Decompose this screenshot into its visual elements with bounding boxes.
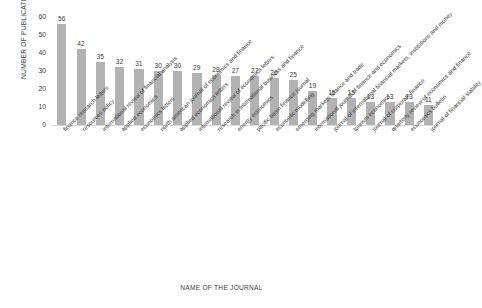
y-axis-tick-0: 0: [24, 121, 46, 128]
y-axis-tick-30: 30: [24, 67, 46, 74]
bar-value-label: 29: [187, 64, 206, 71]
bar-value-label: 31: [129, 60, 148, 67]
y-axis-tick-50: 50: [24, 31, 46, 38]
bar-value-label: 32: [110, 58, 129, 65]
bar-value-label: 25: [284, 71, 303, 78]
y-axis-tick-labels: 0102030405060: [24, 16, 46, 130]
y-axis-tick-10: 10: [24, 103, 46, 110]
bar-slot[interactable]: 56: [52, 17, 71, 125]
y-axis-tick-20: 20: [24, 85, 46, 92]
x-axis-category-labels: finance research lettersresources policy…: [52, 128, 438, 278]
bar-value-label: 42: [71, 40, 90, 47]
x-axis-title: NAME OF THE JOURNAL: [0, 284, 443, 291]
bar-value-label: 56: [52, 15, 71, 22]
y-axis-tick-60: 60: [24, 13, 46, 20]
bar[interactable]: [57, 24, 66, 125]
bar-value-label: 35: [91, 53, 110, 60]
bar-value-label: 27: [226, 67, 245, 74]
y-axis-tick-40: 40: [24, 49, 46, 56]
